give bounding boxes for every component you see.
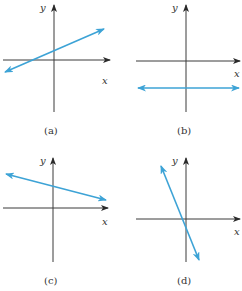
graph-a: y x (a) [3,2,110,136]
x-axis-label: x [234,68,240,79]
graph-b: y x (b) [136,2,240,136]
x-axis-label: x [102,216,108,227]
line-negative-slope [6,174,106,200]
caption-c: (c) [44,275,58,286]
caption-d: (d) [177,275,191,286]
y-axis-label: y [171,155,178,166]
graph-c: y x (c) [3,155,108,286]
graph-d: y x (d) [136,155,240,286]
y-axis-label: y [171,2,178,13]
y-axis-label: y [39,155,46,166]
y-axis-label: y [39,2,46,13]
caption-b: (b) [177,125,191,136]
four-graphs-figure: y x (a) y x (b) y x (c) y x (d) [0,0,242,291]
line-steep-negative-slope [161,166,199,260]
x-axis-label: x [102,75,108,86]
caption-a: (a) [44,125,58,136]
x-axis-label: x [234,226,240,237]
